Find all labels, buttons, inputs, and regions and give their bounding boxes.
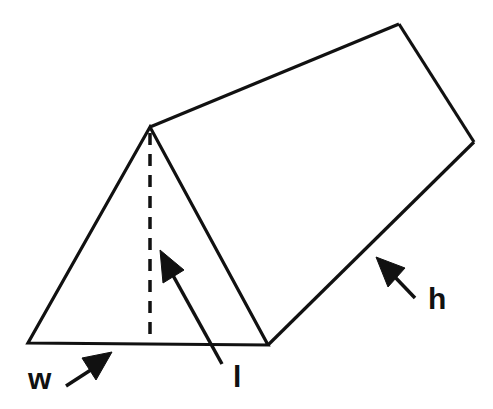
back-edge	[399, 24, 474, 142]
label-w: w	[28, 364, 51, 394]
prism-diagram: w l h	[0, 0, 493, 409]
l-arrow-head	[160, 250, 184, 283]
prism-drawing	[0, 0, 493, 409]
front-triangle-face	[28, 127, 268, 345]
label-h: h	[428, 284, 446, 314]
ridge-edge	[150, 24, 399, 127]
label-l: l	[233, 362, 241, 392]
l-arrow-shaft	[170, 270, 222, 364]
w-arrow-head	[82, 352, 112, 380]
